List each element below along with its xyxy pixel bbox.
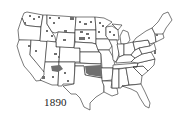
us-map [0,0,189,123]
year-label: 1890 [44,96,67,108]
state-borders [17,12,172,110]
